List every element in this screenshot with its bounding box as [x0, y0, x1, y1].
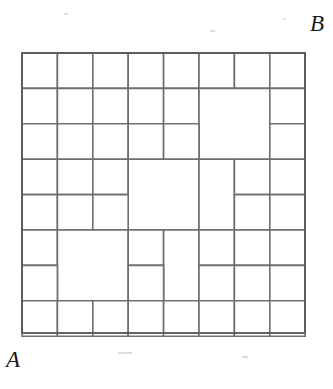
dissection-tile: [128, 124, 163, 159]
dissection-tile: [57, 301, 92, 336]
dissection-tile: [270, 195, 305, 230]
corner-label-b: B: [310, 12, 324, 35]
dissection-tile: [22, 265, 57, 300]
dissection-tile: [93, 88, 128, 123]
dissection-tile: [57, 88, 92, 123]
dissection-tile: [128, 53, 163, 88]
dissection-tile: [57, 159, 92, 194]
dissection-tile: [22, 230, 57, 265]
dissection-tile: [93, 159, 128, 194]
dissection-tile: [270, 53, 305, 88]
dissection-tile: [199, 230, 234, 265]
dissection-tile: [234, 195, 269, 230]
dissection-tile: [270, 301, 305, 336]
dissection-tile: [22, 301, 57, 336]
dissection-tile: [93, 301, 128, 336]
dissection-tile: [234, 159, 269, 194]
dissection-tile: [234, 53, 269, 88]
dissection-tile: [57, 195, 92, 230]
dissection-tile: [270, 230, 305, 265]
dissection-tile: [93, 124, 128, 159]
dissection-tile: [22, 159, 57, 194]
dissection-tile: [270, 265, 305, 300]
dissection-tile: [199, 88, 270, 159]
dissection-tile: [199, 301, 234, 336]
dissection-tile: [57, 230, 128, 301]
dissection-tile: [93, 53, 128, 88]
tile-group: [22, 53, 305, 336]
dissection-tile: [22, 53, 57, 88]
dissection-tile: [128, 230, 163, 265]
dissection-tile: [270, 88, 305, 123]
dissection-tile: [93, 195, 128, 230]
dissection-tile: [270, 159, 305, 194]
dissection-tile: [57, 53, 92, 88]
dissection-tile: [270, 124, 305, 159]
dissection-tile: [199, 159, 234, 230]
dissection-tile: [234, 301, 269, 336]
dissection-tile: [199, 265, 234, 300]
dissection-tile: [234, 230, 269, 265]
dissection-drawing: [0, 0, 333, 389]
dissection-tile: [164, 124, 199, 159]
dissection-tile: [164, 88, 199, 123]
dissection-tile: [128, 301, 163, 336]
dissection-tile: [164, 230, 199, 301]
dissection-tile: [57, 124, 92, 159]
dissection-tile: [128, 88, 163, 123]
squared-square-figure: B A: [0, 0, 333, 389]
dissection-tile: [164, 301, 199, 336]
dissection-tile: [128, 159, 199, 230]
dissection-tile: [234, 265, 269, 300]
dissection-tile: [128, 265, 163, 300]
dissection-tile: [22, 124, 57, 159]
dissection-tile: [22, 195, 57, 230]
corner-label-a: A: [6, 348, 20, 371]
dissection-tile: [164, 53, 199, 88]
dissection-tile: [199, 53, 234, 88]
dissection-tile: [22, 88, 57, 123]
